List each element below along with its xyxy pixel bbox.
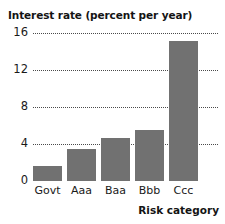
bar-baa: [101, 138, 130, 182]
x-tick-label-ccc: Ccc: [163, 185, 204, 196]
bar-ccc: [169, 41, 198, 181]
y-tick-label-12: 12: [2, 64, 28, 76]
y-tick-label-8: 8: [2, 101, 28, 113]
bar-bbb: [135, 130, 164, 181]
y-tick-label-0: 0: [2, 175, 28, 187]
bar-chart: Interest rate (percent per year) 16 12 8…: [0, 0, 225, 224]
bar-govt: [33, 166, 62, 181]
y-tick-label-4: 4: [2, 138, 28, 150]
bar-aaa: [67, 149, 96, 181]
x-axis-title: Risk category: [138, 204, 219, 216]
y-tick-label-16: 16: [2, 27, 28, 39]
bars-layer: [33, 33, 218, 181]
chart-title: Interest rate (percent per year): [8, 9, 192, 21]
